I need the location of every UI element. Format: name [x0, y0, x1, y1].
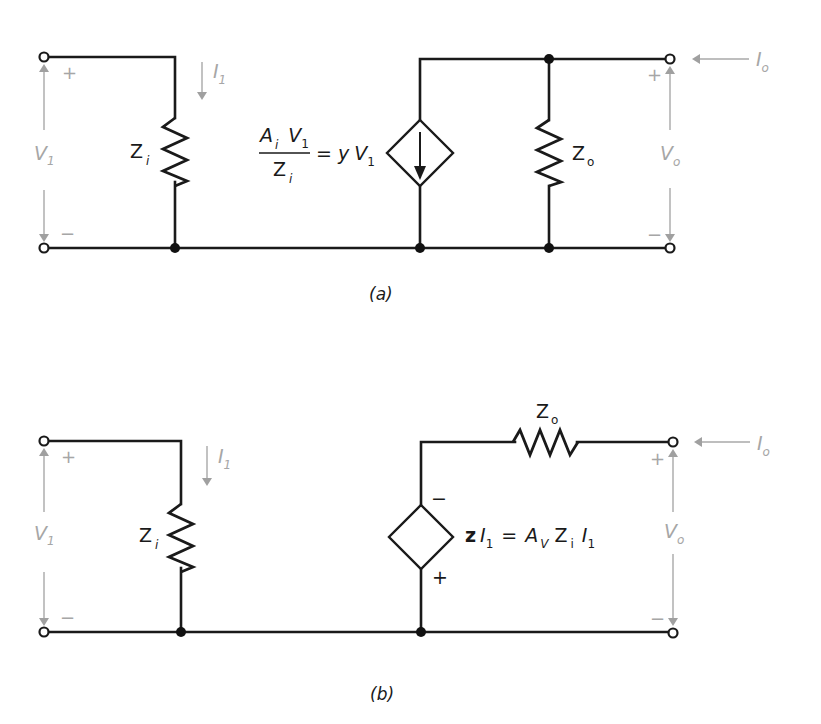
output-terminal-plus[interactable]: [669, 438, 678, 447]
output-terminal-minus[interactable]: [669, 629, 678, 638]
circuit-a: + − V1 I1 Zi AiV1 Zi =yV1 Zo + − Vo Io (…: [34, 48, 769, 304]
vo-minus: −: [650, 608, 665, 629]
source-top-wire: [420, 59, 666, 120]
current-source-expression: AiV1 Zi =yV1: [258, 124, 375, 186]
source-plus: +: [432, 566, 448, 588]
dependent-voltage-source-icon: [389, 505, 453, 569]
input-terminal-minus[interactable]: [40, 628, 49, 637]
v1-plus: +: [61, 446, 76, 467]
junction-node: [170, 243, 180, 253]
zi-label: Zi: [130, 140, 150, 168]
resistor-zo-icon: [513, 430, 578, 455]
input-terminal-plus[interactable]: [40, 437, 49, 446]
resistor-zi-icon: [169, 504, 193, 572]
input-terminal-minus[interactable]: [40, 244, 49, 253]
circuit-b: − + + − V1 I1 Zi Zo zI1=AVZiI1 + − Vo: [34, 400, 770, 704]
svg-text:Zi: Zi: [273, 158, 293, 186]
input-terminal-plus[interactable]: [40, 53, 49, 62]
vo-label: Vo: [664, 520, 684, 547]
svg-text:=yV1: =yV1: [316, 142, 375, 169]
junction-node: [544, 243, 554, 253]
v1-label: V1: [34, 142, 55, 168]
zi-label: Zi: [139, 524, 159, 552]
junction-node: [415, 243, 425, 253]
output-terminal-plus[interactable]: [666, 55, 675, 64]
source-minus: −: [431, 487, 447, 509]
amplifier-equivalent-circuits: + − V1 I1 Zi AiV1 Zi =yV1 Zo + − Vo Io (…: [0, 0, 821, 724]
caption-a: (a): [369, 284, 393, 304]
voltage-source-expression: zI1=AVZiI1: [465, 524, 595, 551]
i1-label: I1: [218, 445, 231, 472]
svg-text:AiV1: AiV1: [258, 124, 309, 152]
v1-minus: −: [60, 607, 75, 628]
zo-label: Zo: [572, 142, 594, 169]
junction-node: [544, 54, 554, 64]
io-label: Io: [756, 48, 769, 75]
junction-node: [416, 627, 426, 637]
i1-label: I1: [213, 60, 226, 87]
v1-minus: −: [60, 223, 75, 244]
resistor-zi-icon: [163, 118, 187, 186]
v1-plus: +: [62, 62, 77, 83]
junction-node: [176, 627, 186, 637]
vo-plus: +: [650, 448, 665, 469]
vo-plus: +: [647, 64, 662, 85]
caption-b: (b): [370, 684, 394, 704]
io-label: Io: [757, 432, 770, 459]
vo-label: Vo: [660, 142, 680, 169]
resistor-zo-icon: [537, 120, 561, 186]
v1-label: V1: [34, 522, 55, 548]
output-terminal-minus[interactable]: [666, 244, 675, 253]
zo-label: Zo: [536, 400, 558, 427]
vo-minus: −: [647, 224, 662, 245]
